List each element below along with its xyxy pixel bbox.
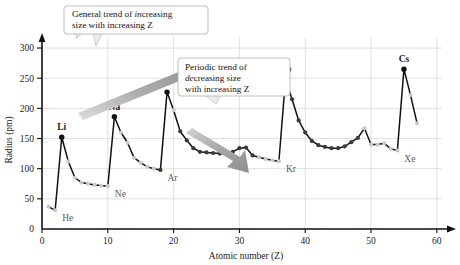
data-point [132,156,136,160]
y-tick-label: 250 [20,74,35,84]
data-point [244,145,248,149]
y-tick-label: 50 [25,194,35,204]
data-point [277,159,281,163]
y-tick-label: 150 [20,134,35,144]
data-point [257,155,261,159]
data-point [73,176,77,180]
y-tick-label: 300 [20,43,35,53]
data-point [145,165,149,169]
minimum-label-he: He [62,213,73,223]
data-point [66,159,70,163]
data-point [303,130,307,134]
decreasing-trend-line3: with increasing Z [185,84,250,94]
y-tick-label: 200 [20,104,35,114]
data-point [382,141,386,145]
data-point [329,146,333,150]
x-tick-label: 20 [169,236,179,246]
x-tick-label: 0 [40,236,45,246]
data-point [408,93,412,97]
decreasing-trend-line2: decreasing size [185,73,241,83]
data-point [389,147,393,151]
data-point [316,143,320,147]
data-point [119,130,123,134]
x-tick-label: 10 [103,236,113,246]
data-point [139,161,143,165]
data-point [93,183,97,187]
y-tick-label: 100 [20,164,35,174]
data-point [356,136,360,140]
data-point [158,168,162,172]
data-point [178,129,182,133]
data-point [270,158,274,162]
data-point [99,183,103,187]
data-point [349,140,353,144]
minimum-label-xe: Xe [404,154,415,164]
increasing-trend-line1: General trend of increasing [72,9,173,19]
x-tick-label: 40 [300,236,310,246]
chart-figure: 0102030405060 050100150200250300 Atomic … [0,0,460,265]
data-point [164,89,169,94]
data-point [290,97,294,101]
data-point [264,157,268,161]
figure-background [0,0,460,265]
x-tick-label: 50 [366,236,376,246]
data-point [310,139,314,143]
increasing-trend-line2: size with increasing Z [72,20,153,30]
data-point [395,148,399,152]
data-point [376,142,380,146]
data-point [112,114,117,119]
peak-label-cs: Cs [399,54,410,64]
data-point [53,208,57,212]
data-point [152,167,156,171]
data-point [237,146,241,150]
data-point [415,121,419,125]
minimum-label-ne: Ne [115,189,126,199]
y-axis-title: Radius (pm) [4,116,15,163]
data-point [297,118,301,122]
data-point [401,66,406,71]
minimum-label-kr: Kr [286,164,297,174]
data-point [191,146,195,150]
x-tick-label: 30 [235,236,245,246]
data-point [211,151,215,155]
y-tick-label: 0 [29,224,34,234]
decreasing-trend-line1: Periodic trend of [185,62,248,72]
chart-svg: 0102030405060 050100150200250300 Atomic … [0,0,460,265]
x-tick-label: 60 [432,236,442,246]
data-point [369,142,373,146]
data-point [198,150,202,154]
data-point [323,145,327,149]
data-point [362,126,366,130]
data-point [336,146,340,150]
data-point [46,205,50,209]
data-point [343,144,347,148]
data-point [86,182,90,186]
x-axis-title: Atomic number (Z) [209,251,283,262]
data-point [172,108,176,112]
data-point [185,138,189,142]
data-point [250,153,254,157]
peak-label-li: Li [57,122,66,132]
data-point [59,135,64,140]
data-point [79,180,83,184]
data-point [204,150,208,154]
data-point [125,141,129,145]
data-point [106,184,110,188]
minimum-label-ar: Ar [167,173,178,183]
